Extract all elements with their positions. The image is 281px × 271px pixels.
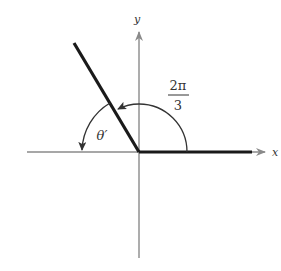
reference-angle-label: θ′ xyxy=(97,128,108,143)
angle-diagram: y x 2π 3 θ′ xyxy=(0,0,281,271)
angle-denominator: 3 xyxy=(174,98,182,113)
angle-numerator: 2π xyxy=(170,78,187,93)
x-axis-label: x xyxy=(272,146,279,159)
y-axis-label: y xyxy=(133,13,141,26)
